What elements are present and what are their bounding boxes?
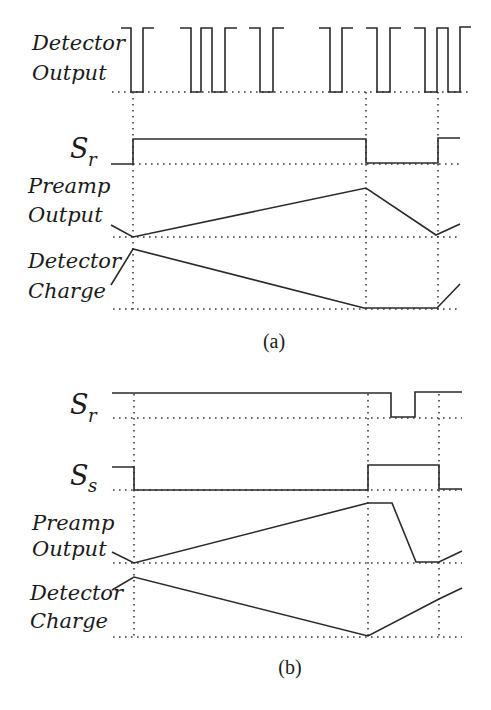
charge-label-line2: Charge: [30, 609, 108, 633]
preamp-output-row-a: Preamp Output: [27, 174, 460, 237]
preamp-label-line2: Output: [32, 537, 107, 561]
detector-output-label-line2: Output: [32, 61, 107, 85]
sr-label-main: S: [70, 389, 89, 420]
preamp-output-row-b: Preamp Output: [31, 503, 462, 563]
charge-waveform-a: [111, 249, 460, 308]
charge-label-line2: Charge: [28, 279, 106, 303]
caption-b: (b): [278, 656, 301, 679]
preamp-waveform-a: [111, 188, 460, 237]
detector-output-waveform: [121, 28, 154, 92]
sr-label-sub: r: [88, 405, 98, 426]
preamp-label-line1: Preamp: [31, 511, 114, 535]
sr-row-a: S r: [70, 133, 460, 170]
sr-waveform-a: [111, 138, 460, 164]
panel-b: S r S s Preamp Output Detector Charge (b…: [29, 389, 462, 679]
sr-waveform-b: [112, 392, 462, 417]
detector-output-waveform: [180, 28, 237, 92]
detector-charge-row-a: Detector Charge: [27, 249, 460, 309]
detector-output-row: Detector Output: [31, 27, 471, 92]
detector-output-waveform: [319, 28, 353, 92]
preamp-label-line2: Output: [28, 203, 103, 227]
ss-label-sub: s: [88, 475, 97, 496]
sr-row-b: S r: [70, 389, 462, 426]
preamp-waveform-b: [112, 503, 462, 563]
charge-waveform-b: [112, 577, 462, 636]
ss-label-main: S: [70, 460, 89, 491]
detector-output-waveform: [414, 27, 471, 92]
timing-diagram: Detector Output S r Preamp Output Detec: [0, 0, 491, 710]
sr-label-main: S: [70, 133, 89, 164]
detector-output-waveform: [366, 28, 401, 92]
charge-label-line1: Detector: [27, 249, 123, 273]
ss-row-b: S s: [70, 460, 462, 496]
charge-label-line1: Detector: [29, 581, 125, 605]
preamp-label-line1: Preamp: [27, 174, 110, 198]
sr-label-sub: r: [88, 149, 98, 170]
ss-waveform-b: [112, 465, 462, 490]
detector-output-label-line1: Detector: [31, 31, 127, 55]
detector-charge-row-b: Detector Charge: [29, 577, 462, 637]
caption-a: (a): [263, 330, 285, 353]
detector-output-waveform: [249, 28, 284, 92]
panel-a: Detector Output S r Preamp Output Detec: [27, 27, 471, 353]
